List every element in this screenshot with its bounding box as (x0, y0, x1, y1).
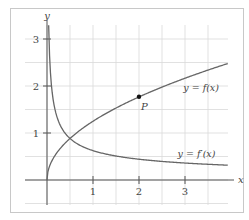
y-tick-label: 2 (33, 81, 39, 92)
point-p-label: P (140, 101, 148, 112)
x-tick-label: 1 (90, 186, 96, 197)
y-axis-label: y (43, 10, 50, 21)
y-tick-label: 1 (33, 128, 39, 139)
f-prime-curve-label: y = f′(x) (177, 148, 216, 159)
point-p-marker (137, 95, 141, 99)
x-tick-label: 2 (136, 186, 142, 197)
x-axis-label: x (238, 174, 244, 185)
chart: 123123xyPy = f(x)y = f′(x) (0, 0, 249, 220)
y-tick-label: 3 (33, 34, 39, 45)
x-tick-label: 3 (182, 186, 188, 197)
f-curve-label: y = f(x) (182, 82, 219, 93)
